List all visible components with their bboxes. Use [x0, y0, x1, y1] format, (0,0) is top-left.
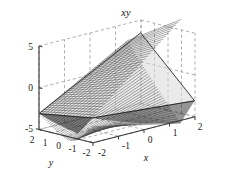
- x-tick-label-1: 1: [173, 128, 178, 138]
- y-tick-label-neg2: -2: [83, 148, 91, 158]
- y-tick-label-0: 0: [56, 141, 61, 151]
- y-tick-label-1: 1: [43, 138, 48, 148]
- x-tick-label-0: 0: [148, 135, 153, 145]
- z-tick-label-0: 0: [28, 83, 33, 93]
- y-tick-label-neg1: -1: [69, 144, 77, 154]
- y-axis-title: y: [48, 157, 54, 168]
- z-tick-label-neg5: -5: [25, 124, 33, 134]
- x-axis-title: x: [143, 152, 149, 163]
- plot-title: xy: [120, 7, 131, 18]
- x-tick-label-2: 2: [198, 122, 203, 132]
- surface-plot-figure: 5 0 -5 2 1 0 -1 -2 -2 -1 0 1 2 y x xy: [0, 0, 249, 187]
- x-tick-label-neg1: -1: [122, 141, 130, 151]
- plot-canvas: 5 0 -5 2 1 0 -1 -2 -2 -1 0 1 2 y x xy: [0, 0, 249, 187]
- y-tick-label-2: 2: [30, 135, 35, 145]
- z-tick-label-5: 5: [28, 42, 33, 52]
- x-tick-label-neg2: -2: [98, 148, 106, 158]
